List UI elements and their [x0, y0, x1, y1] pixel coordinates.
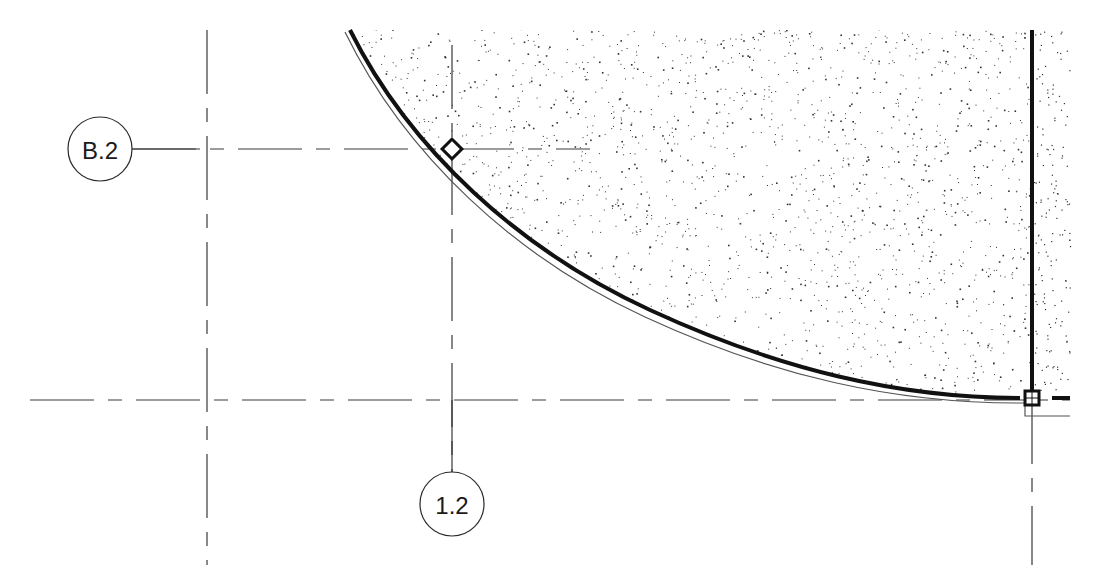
slab-edge[interactable]	[345, 30, 1070, 416]
diamond-snap-marker[interactable]	[442, 139, 462, 159]
slab-edge-outer-line	[345, 32, 1070, 416]
square-endpoint-marker[interactable]	[1025, 391, 1039, 405]
grid-bubble-1-2[interactable]: 1.2	[420, 472, 484, 536]
grid-lines	[30, 30, 1070, 565]
slab-stipple-fill-right	[1034, 32, 1071, 391]
grid-bubble-b2[interactable]: B.2	[68, 117, 132, 181]
grid-bubble-label: B.2	[82, 137, 118, 164]
grid-bubble-label: 1.2	[435, 492, 468, 519]
slab-edge-curve[interactable]	[350, 30, 1020, 398]
plan-drawing-canvas[interactable]: B.2 1.2	[0, 0, 1102, 583]
